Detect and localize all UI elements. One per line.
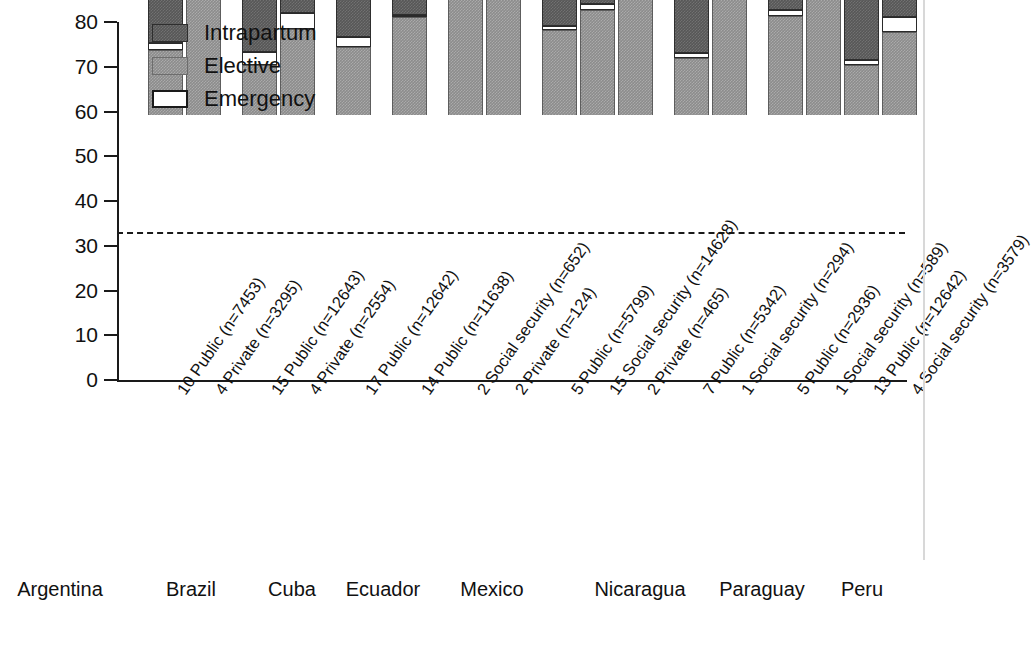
emergency-segment [844,60,879,64]
emergency-segment [768,10,803,16]
legend-label-intrapartum: Intrapartum [204,22,317,44]
legend-item-emergency: Emergency [152,84,412,113]
intrapartum-segment [392,0,427,15]
intrapartum-segment [580,0,615,4]
elective-segment [486,0,521,115]
elective-segment [618,0,653,115]
legend-item-elective: Elective [152,51,412,80]
bar-stack [844,0,879,115]
legend-item-intrapartum: Intrapartum [152,18,412,47]
elective-segment [674,58,709,115]
country-label: Ecuador [346,578,421,600]
intrapartum-segment [882,0,917,17]
elective-swatch-icon [152,57,188,75]
bar-stack [712,0,747,115]
intrapartum-segment [542,0,577,26]
intrapartum-segment [280,0,315,13]
elective-segment [806,0,841,115]
chart-legend: Intrapartum Elective Emergency [152,18,412,117]
emergency-segment [580,4,615,10]
intrapartum-swatch-icon [152,24,188,42]
country-labels: ArgentinaBrazilCubaEcuadorMexicoNicaragu… [0,578,929,608]
elective-segment [542,30,577,115]
bar-stack [882,0,917,115]
country-label: Argentina [17,578,103,600]
country-label: Cuba [268,578,316,600]
country-label: Paraguay [719,578,805,600]
bar-stack [448,0,483,115]
bar-stack [580,0,615,115]
country-label: Brazil [166,578,216,600]
elective-segment [844,65,879,115]
legend-label-elective: Elective [204,55,281,77]
emergency-segment [674,53,709,58]
bar-stack [618,0,653,115]
bar-stack [486,0,521,115]
country-label: Mexico [460,578,523,600]
bar-stack [542,0,577,115]
bar-stack [674,0,709,115]
intrapartum-segment [844,0,879,60]
country-label: Peru [841,578,883,600]
intrapartum-segment [674,0,709,53]
category-labels: 10 Public (n=7453)4 Private (n=3295)15 P… [0,382,929,562]
country-label: Nicaragua [594,578,685,600]
elective-segment [882,32,917,115]
bar-stack [806,0,841,115]
elective-segment [712,0,747,115]
intrapartum-segment [768,0,803,10]
elective-segment [580,10,615,115]
bar-stack [768,0,803,115]
emergency-segment [882,17,917,32]
emergency-segment [542,26,577,30]
emergency-swatch-icon [152,90,188,108]
elective-segment [448,0,483,115]
page-edge-artifact [923,0,925,560]
legend-label-emergency: Emergency [204,88,315,110]
elective-segment [768,16,803,115]
